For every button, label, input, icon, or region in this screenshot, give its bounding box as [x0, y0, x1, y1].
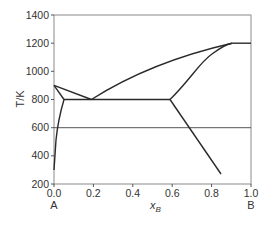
b-solvus-line [170, 100, 221, 175]
y-tick-label: 800 [31, 93, 49, 105]
y-tick-label: 1200 [26, 37, 50, 49]
y-tick-label: 600 [31, 121, 49, 133]
x-tick-label: 0.8 [204, 187, 219, 199]
y-axis-label: T/K [14, 90, 26, 108]
a-solvus-curve [54, 100, 64, 171]
x-tick-label: 0.4 [125, 187, 140, 199]
x-tick-label: 0.6 [165, 187, 180, 199]
component-a-label: A [50, 199, 58, 211]
y-tick-label: 400 [31, 149, 49, 161]
component-b-label: B [247, 199, 254, 211]
x-tick-labels: 0.0 0.2 0.4 0.6 0.8 1.0 [47, 187, 259, 199]
x-axis-label: xB [149, 199, 162, 214]
y-tick-label: 1400 [26, 9, 50, 21]
y-tick-label: 1000 [26, 65, 50, 77]
x-tick-label: 0.2 [86, 187, 101, 199]
x-tick-label: 1.0 [244, 187, 259, 199]
phase-diagram: 1400 1200 1000 800 600 400 200 0.0 0.2 0… [0, 0, 267, 225]
phase-boundaries [54, 43, 251, 174]
y-tick-labels: 1400 1200 1000 800 600 400 200 [26, 9, 50, 190]
b-liquidus-curve [91, 43, 232, 99]
x-tick-label: 0.0 [47, 187, 62, 199]
